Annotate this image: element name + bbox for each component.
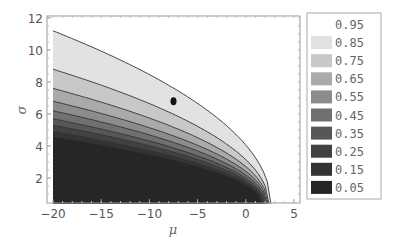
legend-label: 0.05 (335, 181, 364, 195)
y-tick-label: 6 (35, 108, 43, 122)
legend-swatch (311, 109, 332, 122)
legend-label: 0.65 (335, 72, 364, 86)
x-tick-label: −10 (137, 207, 162, 221)
contour-chart: −20−15−10−505 24681012 μ σ 0.950.850.750… (0, 0, 396, 240)
y-tick-label: 2 (35, 172, 43, 186)
legend-label: 0.95 (335, 18, 364, 32)
legend-swatch (311, 36, 332, 49)
legend: 0.950.850.750.650.550.450.350.250.150.05 (307, 13, 381, 199)
x-tick-label: −15 (89, 207, 114, 221)
x-axis-label: μ (169, 222, 177, 237)
legend-label: 0.35 (335, 127, 364, 141)
legend-swatch (311, 163, 332, 176)
annotation-points (171, 97, 177, 105)
legend-swatch (311, 90, 332, 103)
legend-swatch (311, 145, 332, 158)
legend-label: 0.45 (335, 109, 364, 123)
legend-label: 0.15 (335, 163, 364, 177)
y-tick-label: 8 (35, 76, 43, 90)
legend-swatch (311, 54, 332, 67)
x-tick-label: −20 (40, 207, 65, 221)
legend-label: 0.75 (335, 54, 364, 68)
legend-swatch (311, 181, 332, 194)
y-tick-label: 12 (28, 12, 43, 26)
legend-swatch (311, 72, 332, 85)
legend-label: 0.85 (335, 36, 364, 50)
legend-label: 0.55 (335, 90, 364, 104)
y-tick-label: 10 (28, 44, 43, 58)
legend-swatch (311, 127, 332, 140)
x-tick-label: 5 (290, 207, 298, 221)
marker-point (171, 97, 177, 105)
x-tick-label: 0 (242, 207, 250, 221)
y-axis-label: σ (14, 104, 29, 114)
legend-label: 0.25 (335, 145, 364, 159)
x-tick-label: −5 (189, 207, 207, 221)
y-tick-label: 4 (35, 140, 43, 154)
legend-swatch (311, 18, 332, 31)
